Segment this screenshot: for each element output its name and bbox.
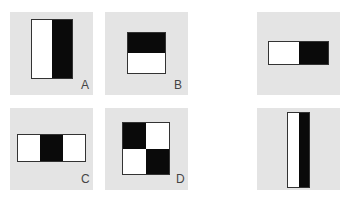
black-region	[299, 113, 310, 187]
haar-feature-edge-horizontal	[127, 32, 166, 74]
black-region	[128, 33, 165, 53]
black-region	[123, 123, 146, 149]
white-region	[146, 123, 169, 149]
feature-panel-e	[257, 12, 340, 95]
panel-label: C	[81, 172, 90, 186]
panel-label: B	[174, 78, 182, 92]
feature-panel-c: C	[10, 108, 93, 190]
haar-feature-four-rectangle	[122, 122, 170, 175]
white-region	[123, 149, 146, 175]
haar-feature-edge-tall	[287, 112, 310, 188]
white-region	[288, 113, 299, 187]
black-region	[40, 135, 62, 161]
haar-feature-edge-vertical	[31, 19, 73, 79]
white-region	[18, 135, 40, 161]
white-region	[269, 42, 299, 64]
feature-panel-f	[257, 108, 340, 190]
haar-feature-edge-wide	[268, 41, 329, 65]
black-region	[146, 149, 169, 175]
white-region	[128, 53, 165, 73]
panel-label: D	[176, 172, 185, 186]
white-region	[32, 20, 52, 78]
white-region	[63, 135, 85, 161]
black-region	[299, 42, 329, 64]
feature-panel-a: A	[10, 12, 93, 95]
haar-feature-line	[17, 134, 86, 162]
feature-panel-d: D	[105, 108, 188, 190]
feature-panel-b: B	[105, 12, 188, 95]
panel-label: A	[81, 78, 89, 92]
black-region	[52, 20, 72, 78]
